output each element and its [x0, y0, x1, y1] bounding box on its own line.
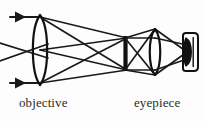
eyepiece-lens: [150, 29, 161, 75]
eye-pupil-icon: [184, 38, 192, 66]
arrow-tails: [10, 17, 16, 83]
eyepiece-label: eyepiece: [134, 95, 180, 111]
oblique-incoming-rays: [0, 43, 48, 61]
objective-label: objective: [19, 95, 68, 111]
eye: [183, 33, 198, 71]
optical-diagram-figure: objective eyepiece: [0, 0, 205, 121]
oblique-ray-up: [0, 44, 48, 61]
eyepiece-lens-outline: [150, 29, 161, 75]
ray-obj-top-to-image-top: [40, 17, 127, 38]
ray-axis-lower: [40, 50, 127, 70]
objective-to-image-rays: [40, 17, 127, 83]
